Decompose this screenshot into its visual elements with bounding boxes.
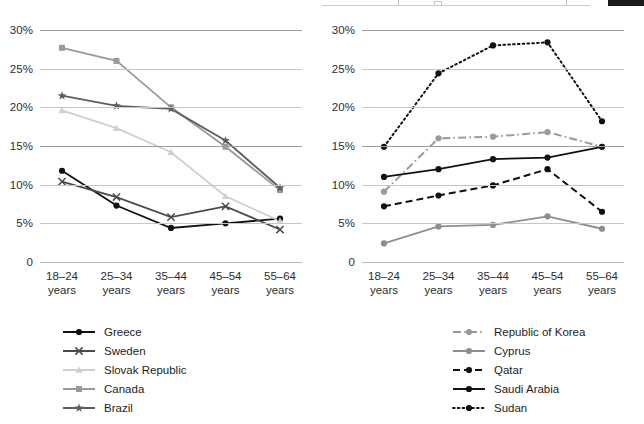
data-point-marker xyxy=(544,213,550,219)
gridline-15 xyxy=(362,146,624,147)
x-tick-range: 45–54 xyxy=(532,270,564,284)
legend-item-qatar[interactable]: Qatar xyxy=(452,360,585,379)
y-tick-label: 0 xyxy=(349,256,356,268)
x-tick-label: 35–44years xyxy=(477,270,509,297)
data-point-marker xyxy=(435,192,441,198)
legend-label: Qatar xyxy=(494,363,523,377)
y-tick-label: 5% xyxy=(16,217,33,229)
data-point-marker xyxy=(59,168,65,174)
data-point-marker xyxy=(381,240,387,246)
x-tick-unit: years xyxy=(101,284,133,298)
y-tick-label: 30% xyxy=(332,24,355,36)
legend-swatch-circle-icon xyxy=(452,401,486,415)
data-point-marker xyxy=(435,70,441,76)
x-tick-label: 55–64years xyxy=(586,270,618,297)
chart-page: 05%10%15%20%25%30%18–24years25–34years35… xyxy=(0,0,644,424)
data-point-marker xyxy=(599,118,605,124)
legend-item-greece[interactable]: Greece xyxy=(62,322,186,341)
plot-area-right: 05%10%15%20%25%30%18–24years25–34years35… xyxy=(362,30,624,262)
legend-item-cyprus[interactable]: Cyprus xyxy=(452,341,585,360)
legend-right: Republic of KoreaCyprusQatarSaudi Arabia… xyxy=(452,322,585,417)
legend-label: Brazil xyxy=(104,401,133,415)
x-tick-label: 45–54years xyxy=(532,270,564,297)
y-tick-label: 20% xyxy=(10,101,33,113)
data-point-marker xyxy=(544,155,550,161)
x-tick-unit: years xyxy=(46,284,78,298)
data-point-marker xyxy=(544,166,550,172)
legend-label: Greece xyxy=(104,325,142,339)
gridline-0 xyxy=(362,262,624,263)
series-line xyxy=(384,216,602,243)
data-point-marker xyxy=(276,226,283,233)
x-tick-label: 55–64years xyxy=(264,270,296,297)
legend-item-saudi-arabia[interactable]: Saudi Arabia xyxy=(452,379,585,398)
legend-item-sudan[interactable]: Sudan xyxy=(452,398,585,417)
x-tick-range: 55–64 xyxy=(264,270,296,284)
y-tick-label: 5% xyxy=(338,217,355,229)
legend-swatch-square-icon xyxy=(62,382,96,396)
gridline-10 xyxy=(40,185,302,186)
legend-item-canada[interactable]: Canada xyxy=(62,379,186,398)
gridline-0 xyxy=(40,262,302,263)
y-tick-label: 10% xyxy=(332,179,355,191)
data-point-marker xyxy=(76,328,82,334)
x-tick-unit: years xyxy=(264,284,296,298)
data-point-marker xyxy=(114,58,120,64)
legend-swatch-triangle-icon xyxy=(62,363,96,377)
chart-panel-left: 05%10%15%20%25%30%18–24years25–34years35… xyxy=(0,12,322,312)
y-tick-label: 25% xyxy=(332,63,355,75)
x-tick-label: 25–34years xyxy=(423,270,455,297)
series-line xyxy=(62,110,280,221)
y-tick-label: 0 xyxy=(27,256,34,268)
legend-item-sweden[interactable]: Sweden xyxy=(62,341,186,360)
x-tick-range: 55–64 xyxy=(586,270,618,284)
data-point-marker xyxy=(59,45,65,51)
legend-swatch-star-icon xyxy=(62,401,96,415)
data-point-marker xyxy=(490,42,496,48)
data-point-marker xyxy=(466,328,472,334)
data-point-marker xyxy=(544,129,550,135)
data-point-marker xyxy=(381,203,387,209)
toolbar-dark-badge[interactable] xyxy=(608,0,644,6)
x-tick-unit: years xyxy=(477,284,509,298)
x-tick-unit: years xyxy=(210,284,242,298)
data-point-marker xyxy=(113,202,119,208)
x-tick-range: 35–44 xyxy=(477,270,509,284)
gridline-20 xyxy=(362,107,624,108)
legend-item-republic-of-korea[interactable]: Republic of Korea xyxy=(452,322,585,341)
toolbar-tick-2 xyxy=(566,0,567,5)
legend-swatch-circle-icon xyxy=(452,344,486,358)
data-point-marker xyxy=(58,91,67,99)
gridline-15 xyxy=(40,146,302,147)
series-line xyxy=(384,42,602,146)
gridline-30 xyxy=(40,30,302,31)
y-tick-label: 30% xyxy=(10,24,33,36)
data-point-marker xyxy=(381,189,387,195)
x-tick-label: 18–24years xyxy=(368,270,400,297)
legend-swatch-circle-icon xyxy=(452,363,486,377)
legend-label: Sudan xyxy=(494,401,527,415)
legend-item-brazil[interactable]: Brazil xyxy=(62,398,186,417)
gridline-10 xyxy=(362,185,624,186)
data-point-marker xyxy=(168,225,174,231)
legend-swatch-circle-icon xyxy=(452,325,486,339)
data-point-marker xyxy=(544,39,550,45)
legend-label: Republic of Korea xyxy=(494,325,585,339)
x-tick-range: 18–24 xyxy=(368,270,400,284)
x-tick-range: 18–24 xyxy=(46,270,78,284)
gridline-30 xyxy=(362,30,624,31)
legend-label: Sweden xyxy=(104,344,146,358)
gridline-20 xyxy=(40,107,302,108)
legend-item-slovak-republic[interactable]: Slovak Republic xyxy=(62,360,186,379)
data-point-marker xyxy=(599,209,605,215)
x-tick-range: 35–44 xyxy=(155,270,187,284)
series-line xyxy=(62,171,280,228)
legend-label: Saudi Arabia xyxy=(494,382,559,396)
x-tick-range: 25–34 xyxy=(101,270,133,284)
data-point-marker xyxy=(466,366,472,372)
gridline-5 xyxy=(40,223,302,224)
toolbar-field-box[interactable] xyxy=(434,1,442,6)
x-tick-unit: years xyxy=(368,284,400,298)
data-point-marker xyxy=(76,386,82,392)
series-line xyxy=(384,169,602,212)
